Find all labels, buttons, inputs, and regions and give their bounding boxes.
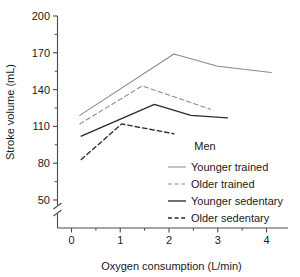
x-tick-label: 1 [117,234,123,246]
y-tick-label: 80 [38,157,50,169]
series-line-older-trained [80,86,211,124]
x-tick-label: 2 [166,234,172,246]
legend-label-younger-trained: Younger trained [191,161,268,173]
x-tick-label: 4 [263,234,269,246]
y-tick-label: 110 [32,120,50,132]
legend-label-younger-sedentary: Younger sedentary [191,195,283,207]
y-tick-label: 140 [32,84,50,96]
legend-label-older-trained: Older trained [191,178,255,190]
y-tick-label: 170 [32,47,50,59]
y-tick-label: 200 [32,10,50,22]
x-axis-title: Oxygen consumption (L/min) [101,260,242,272]
legend-label-older-sedentary: Older sedentary [191,212,270,224]
x-tick-label: 3 [215,234,221,246]
series-line-older-sedentary [81,124,174,160]
stroke-volume-line-chart: 508011014017020001234Oxygen consumption … [0,0,300,277]
y-tick-label: 50 [38,194,50,206]
chart-canvas: 508011014017020001234Oxygen consumption … [0,0,300,277]
x-tick-label: 0 [68,234,74,246]
series-line-younger-sedentary [81,104,227,136]
y-axis-title: Stroke volume (mL) [4,64,16,160]
legend-title: Men [194,140,215,152]
